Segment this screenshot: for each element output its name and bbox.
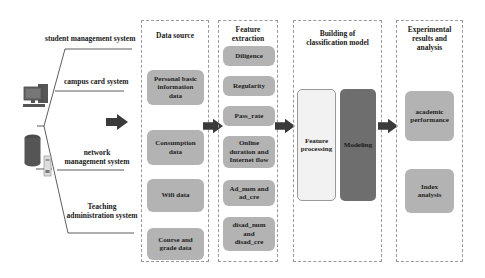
item-line: Wifi data (161, 191, 189, 200)
item-line: academic (410, 108, 448, 117)
result-item-academic-performance: academic performance (405, 91, 454, 141)
item-line: Modeling (344, 141, 372, 150)
item-line: information (154, 83, 197, 92)
item-line: Consumption (155, 139, 195, 148)
model-step-feature-processing: Feature processing (297, 89, 336, 201)
panel-title: Feature extraction (219, 25, 277, 43)
item-line: analysis (418, 191, 442, 200)
item-line: performance (410, 116, 448, 125)
item-line: duration and (229, 148, 268, 157)
item-line: processing (301, 145, 332, 154)
panel-title: Data source (142, 31, 208, 40)
system-label-teaching-administration: Teaching administration system (66, 203, 138, 220)
item-line: Regularity (233, 82, 265, 91)
system-label-line: administration system (66, 212, 138, 221)
title-line: extraction (219, 34, 277, 43)
panel-data-source: Data source Personal basic information d… (141, 20, 209, 262)
feature-item-disad-num: disad_num and disad_cre (223, 217, 275, 251)
item-line: Diligence (235, 52, 263, 61)
item-line: Pass_rate (235, 112, 264, 121)
feature-item-diligence: Diligence (223, 46, 275, 66)
data-item-consumption: Consumption data (147, 130, 204, 165)
server-database-icon (24, 134, 52, 179)
feature-item-ad-num: Ad_num and ad_cre (223, 180, 275, 206)
panel-feature-extraction: Feature extraction Diligence Regularity … (218, 20, 278, 262)
item-line: data (155, 148, 195, 157)
item-line: Feature (301, 137, 332, 146)
data-item-personal-basic-information: Personal basic information data (147, 70, 204, 105)
right-arrow-icon (378, 118, 398, 134)
item-line: ad_cre (229, 193, 268, 202)
item-line: Personal basic (154, 75, 197, 84)
item-line: Ad_num and (229, 185, 268, 194)
right-arrow-icon (275, 118, 295, 134)
title-line: Building of (294, 29, 381, 38)
panel-experimental-results: Experimental results and analysis academ… (396, 20, 463, 262)
right-arrow-icon (106, 114, 128, 130)
panel-title: Experimental results and analysis (397, 25, 462, 52)
item-line: and (232, 230, 265, 239)
panel-classification-model: Building of classification model Feature… (293, 20, 382, 262)
item-line: disad_num (232, 221, 265, 230)
system-label-line: management system (64, 158, 130, 167)
title-line: results and (397, 34, 462, 43)
data-item-course-and-grade: Course and grade data (147, 228, 204, 260)
panel-title: Building of classification model (294, 29, 381, 47)
title-line: analysis (397, 43, 462, 52)
system-label-network-management: network management system (64, 149, 130, 166)
item-line: Course and (158, 236, 192, 245)
desktop-computer-icon (22, 84, 50, 109)
feature-item-pass-rate: Pass_rate (223, 106, 275, 126)
data-item-wifi: Wifi data (147, 179, 204, 212)
item-line: data (154, 92, 197, 101)
result-item-index-analysis: Index analysis (405, 169, 454, 213)
system-label-student-management: student management system (45, 35, 135, 44)
system-label-campus-card: campus card system (64, 78, 129, 87)
item-line: Index (418, 183, 442, 192)
item-line: Online (229, 139, 268, 148)
model-step-modeling: Modeling (340, 89, 376, 201)
feature-item-regularity: Regularity (223, 76, 275, 96)
item-line: disad_cre (232, 238, 265, 247)
title-line: classification model (294, 38, 381, 47)
item-line: Internet flow (229, 156, 268, 165)
title-line: Experimental (397, 25, 462, 34)
title-line: Feature (219, 25, 277, 34)
feature-item-online-duration: Online duration and Internet flow (223, 136, 275, 168)
item-line: grade data (158, 244, 192, 253)
